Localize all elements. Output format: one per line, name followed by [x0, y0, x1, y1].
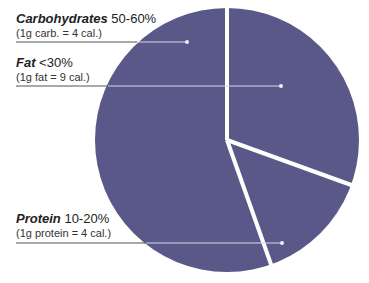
- carbs-note: (1g carb. = 4 cal.): [16, 26, 156, 40]
- label-carbohydrates: Carbohydrates 50-60% (1g carb. = 4 cal.): [16, 12, 156, 40]
- protein-note: (1g protein = 4 cal.): [16, 226, 111, 240]
- fat-range: <30%: [36, 55, 73, 70]
- carbs-name: Carbohydrates: [16, 11, 108, 26]
- carbs-range: 50-60%: [108, 11, 156, 26]
- label-protein: Protein 10-20% (1g protein = 4 cal.): [16, 212, 111, 240]
- fat-note: (1g fat = 9 cal.): [16, 70, 90, 84]
- label-fat: Fat <30% (1g fat = 9 cal.): [16, 56, 90, 84]
- pie-chart: [0, 0, 369, 283]
- protein-range: 10-20%: [61, 211, 109, 226]
- fat-name: Fat: [16, 55, 36, 70]
- protein-name: Protein: [16, 211, 61, 226]
